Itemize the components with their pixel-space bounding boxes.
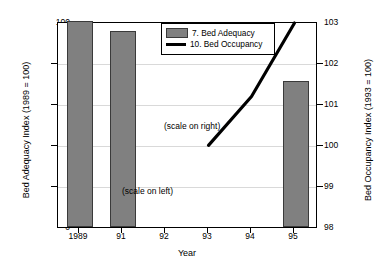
annotation-scale-on-right: (scale on right)	[164, 121, 220, 131]
y-axis-right-tickmark-102	[317, 63, 323, 64]
legend-label-bed-occupancy: 10. Bed Occupancy	[190, 39, 262, 49]
y-axis-right-title: Bed Occupancy Index (1993 = 100)	[363, 20, 373, 240]
y-axis-right-tick-98: 98	[324, 223, 354, 232]
legend-line-swatch-icon	[166, 43, 186, 46]
y-axis-right-tickmark-100	[317, 145, 323, 146]
plot-area: (scale on left) (scale on right) 7. Bed …	[57, 22, 317, 228]
y-axis-right-tick-99: 99	[324, 182, 354, 191]
y-axis-right-tick-100: 100	[324, 141, 354, 150]
y-axis-right-tickmark-99	[317, 186, 323, 187]
legend-item-bed-adequacy: 7. Bed Adequacy	[166, 28, 270, 38]
chart-legend: 7. Bed Adequacy 10. Bed Occupancy	[161, 23, 275, 55]
chart-figure: Bed Adequacy Index (1989 = 100) Bed Occu…	[0, 0, 392, 278]
annotation-scale-on-left: (scale on left)	[122, 186, 173, 196]
x-axis-tick-91: 91	[101, 232, 141, 241]
legend-item-bed-occupancy: 10. Bed Occupancy	[166, 39, 270, 49]
y-axis-right-tickmark-101	[317, 104, 323, 105]
y-axis-right-tick-101: 101	[324, 100, 354, 109]
legend-label-bed-adequacy: 7. Bed Adequacy	[192, 28, 255, 38]
y-axis-right-tick-102: 102	[324, 59, 354, 68]
x-axis-tick-93: 93	[187, 232, 227, 241]
x-axis-tick-94: 94	[230, 232, 270, 241]
legend-bar-swatch-icon	[166, 28, 188, 38]
y-axis-right-tick-103: 103	[324, 18, 354, 27]
y-axis-left-title: Bed Adequacy Index (1989 = 100)	[21, 20, 31, 240]
x-axis-tick-92: 92	[144, 232, 184, 241]
x-axis-title: Year	[57, 248, 317, 258]
x-axis-tick-1989: 1989	[58, 232, 98, 241]
x-axis-tick-95: 95	[273, 232, 313, 241]
